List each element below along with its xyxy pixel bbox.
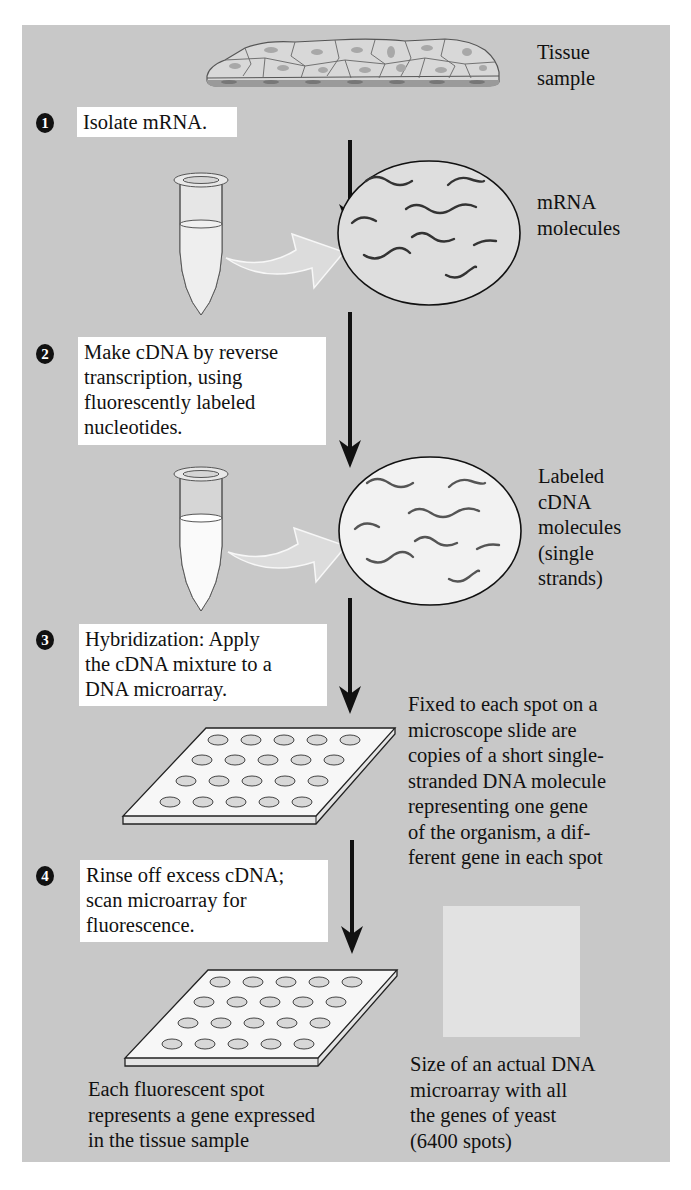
down-arrow-icon [338, 312, 362, 468]
step-4-badge: 4 [36, 866, 54, 886]
curved-arrow-icon [226, 524, 350, 586]
microarray-slide-icon [122, 968, 400, 1072]
curved-arrow-icon [224, 230, 348, 292]
step-2-badge: 2 [36, 344, 54, 364]
mrna-label: mRNA molecules [537, 190, 620, 241]
cdna-label: Labeled cDNA molecules (single strands) [538, 464, 621, 592]
tissue-sample-icon [205, 36, 501, 88]
spot-caption: Each fluorescent spot represents a gene … [88, 1077, 315, 1154]
microarray-note: Fixed to each spot on a microscope slide… [408, 692, 606, 871]
yeast-caption: Size of an actual DNA microarray with al… [410, 1052, 596, 1154]
step-1-badge: 1 [36, 113, 54, 133]
step-3-box: Hybridization: Apply the cDNA mixture to… [79, 624, 327, 706]
down-arrow-icon [338, 598, 362, 714]
test-tube-icon [172, 466, 230, 614]
microarray-slide-icon [120, 726, 398, 830]
step-1-box: Isolate mRNA. [77, 107, 237, 137]
step-3-badge: 3 [36, 630, 54, 650]
tissue-label: Tissue sample [537, 40, 595, 91]
down-arrow-icon [340, 840, 364, 954]
step-2-box: Make cDNA by reverse transcription, usin… [78, 337, 326, 445]
yeast-microarray-square [443, 906, 580, 1037]
step-4-box: Rinse off excess cDNA; scan microarray f… [80, 860, 328, 942]
molecule-circle-icon [337, 455, 523, 607]
molecule-circle-icon [336, 159, 522, 307]
test-tube-icon [172, 172, 230, 320]
